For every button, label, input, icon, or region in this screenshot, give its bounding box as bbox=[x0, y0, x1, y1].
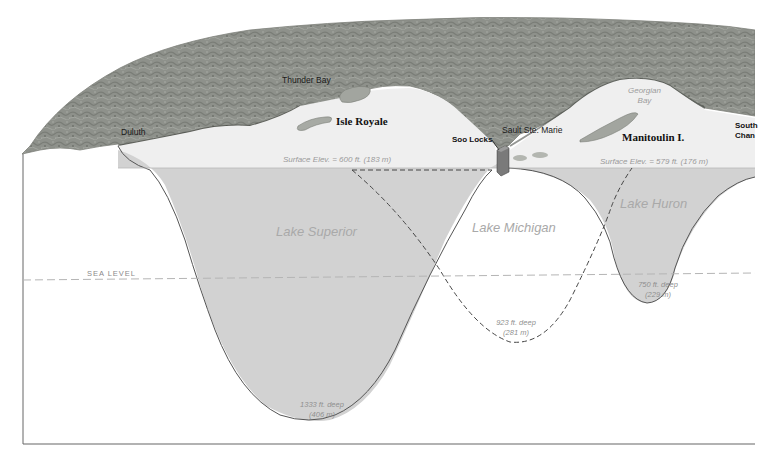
lake-michigan-name: Lake Michigan bbox=[472, 220, 556, 235]
lake-huron-name: Lake Huron bbox=[620, 196, 687, 211]
lake-michigan-depth: 923 ft. deep (281 m) bbox=[486, 318, 546, 338]
lake-huron-depth: 750 ft. deep (229 m) bbox=[628, 280, 688, 300]
label-isle-royale: Isle Royale bbox=[336, 115, 388, 127]
label-south-channel: South Chan bbox=[735, 121, 758, 141]
lake-superior-depth: 1333 ft. deep (406 m) bbox=[292, 400, 352, 420]
huron-depth-m: (229 m) bbox=[628, 290, 688, 300]
superior-depth-ft: 1333 ft. deep bbox=[292, 400, 352, 410]
south-channel-line2: Chan bbox=[735, 131, 758, 141]
label-thunder-bay: Thunder Bay bbox=[282, 75, 331, 85]
lake-superior-basin bbox=[118, 150, 497, 421]
small-island-1 bbox=[513, 155, 527, 161]
superior-depth-m: (406 m) bbox=[292, 410, 352, 420]
michigan-depth-m: (281 m) bbox=[486, 328, 546, 338]
georgian-bay-line2: Bay bbox=[628, 96, 661, 106]
michigan-depth-ft: 923 ft. deep bbox=[486, 318, 546, 328]
small-island-2 bbox=[532, 152, 548, 158]
superior-surface-elevation: Surface Elev. = 600 ft. (183 m) bbox=[283, 155, 391, 164]
lake-superior-name: Lake Superior bbox=[276, 224, 357, 239]
sea-level-label: SEA LEVEL bbox=[87, 269, 136, 278]
label-manitoulin: Manitoulin I. bbox=[622, 131, 684, 143]
label-sault-ste-marie: Sault Ste. Marie bbox=[502, 125, 562, 135]
label-georgian-bay: Georgian Bay bbox=[628, 86, 661, 106]
label-soo-locks: Soo Locks bbox=[452, 135, 492, 144]
label-duluth: Duluth bbox=[121, 127, 146, 137]
south-channel-line1: South bbox=[735, 121, 758, 131]
georgian-bay-line1: Georgian bbox=[628, 86, 661, 96]
huron-depth-ft: 750 ft. deep bbox=[628, 280, 688, 290]
huron-surface-elevation: Surface Elev. = 579 ft. (176 m) bbox=[600, 157, 708, 166]
